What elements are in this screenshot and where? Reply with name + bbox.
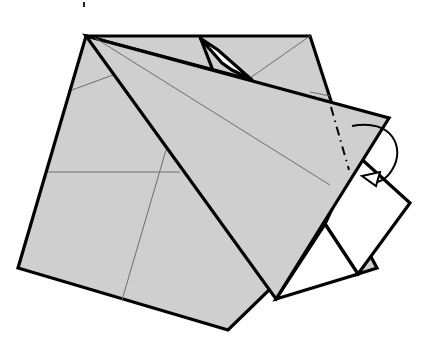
origami-diagram [0, 0, 431, 342]
speck-mark [83, 2, 85, 7]
